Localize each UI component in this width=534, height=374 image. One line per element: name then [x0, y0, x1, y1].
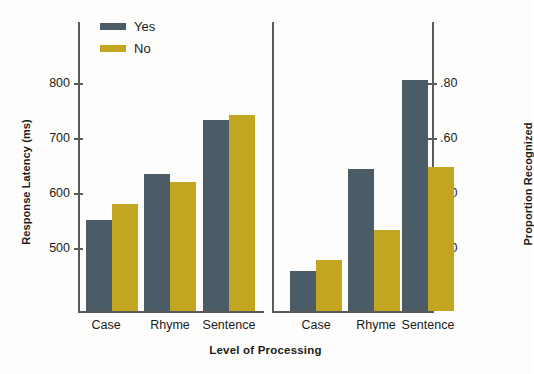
- right-ticklabel-60: .60: [440, 131, 480, 145]
- right-ticklabel-80: .80: [440, 76, 480, 90]
- legend-label-no: No: [134, 41, 151, 56]
- right-tick-80: [428, 83, 437, 85]
- right-category-case: Case: [282, 318, 350, 332]
- legend: Yes No: [100, 16, 155, 60]
- right-category-sentence: Sentence: [393, 318, 463, 332]
- x-axis-title: Level of Processing: [0, 344, 531, 356]
- bar-right-case-yes: [290, 271, 316, 311]
- left-ticklabel-800: 800: [20, 76, 70, 90]
- bar-right-sentence-yes: [402, 80, 428, 311]
- left-x-axis: [78, 311, 264, 313]
- bar-left-case-no: [112, 204, 138, 311]
- bar-left-case-yes: [86, 220, 112, 311]
- left-y-axis: [78, 22, 80, 313]
- right-panel-left-divider: [272, 22, 274, 313]
- left-y-axis-title: Response Latency (ms): [20, 102, 32, 262]
- bar-right-sentence-no: [428, 167, 454, 311]
- bar-right-rhyme-yes: [348, 169, 374, 311]
- bar-right-case-no: [316, 260, 342, 311]
- left-category-sentence: Sentence: [194, 318, 264, 332]
- right-panel: .80 .60 .40 .20 Case Rhyme Sentence: [265, 0, 531, 374]
- legend-item-yes: Yes: [100, 16, 155, 36]
- bar-left-rhyme-yes: [144, 174, 170, 311]
- left-tick-600: [74, 193, 83, 195]
- bar-right-rhyme-no: [374, 230, 400, 311]
- left-panel: 800 700 600 500 Case Rhyme Sentence Yes: [0, 0, 266, 374]
- legend-item-no: No: [100, 38, 155, 58]
- left-tick-500: [74, 248, 83, 250]
- legend-swatch-no-icon: [100, 45, 126, 52]
- bar-left-sentence-yes: [203, 120, 229, 311]
- right-tick-60: [428, 138, 437, 140]
- legend-label-yes: Yes: [134, 19, 155, 34]
- legend-swatch-yes-icon: [100, 23, 126, 30]
- bar-left-rhyme-no: [170, 182, 196, 311]
- left-tick-700: [74, 138, 83, 140]
- right-x-axis: [272, 311, 434, 313]
- left-category-case: Case: [72, 318, 140, 332]
- bar-left-sentence-no: [229, 115, 255, 311]
- right-y-axis-title: Proportion Recognized: [522, 94, 534, 274]
- left-tick-800: [74, 83, 83, 85]
